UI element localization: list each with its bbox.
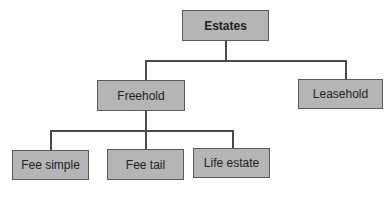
connector-to-fee-simple — [50, 130, 52, 150]
node-freehold: Freehold — [97, 80, 185, 111]
connector-freehold-down — [145, 111, 147, 131]
connector-to-leasehold — [345, 60, 347, 79]
connector-level1-bar — [145, 60, 346, 62]
node-fee-tail: Fee tail — [107, 149, 184, 180]
node-life-estate: Life estate — [193, 148, 270, 178]
connector-to-life-estate — [232, 130, 234, 148]
connector-root-down — [225, 41, 227, 61]
connector-level2-bar — [50, 130, 233, 132]
node-fee-simple: Fee simple — [12, 150, 89, 180]
node-estates: Estates — [182, 10, 269, 41]
connector-to-fee-tail — [145, 130, 147, 149]
connector-to-freehold — [145, 60, 147, 80]
node-leasehold: Leasehold — [298, 79, 383, 109]
